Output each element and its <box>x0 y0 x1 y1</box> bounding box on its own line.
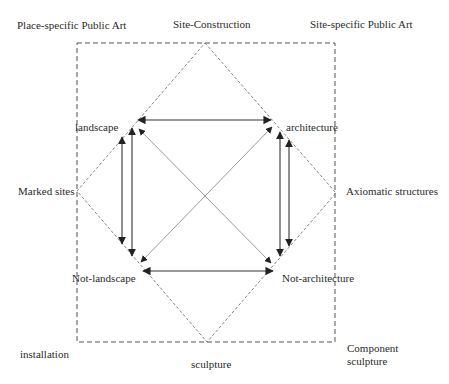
label-axiomatic-structures: Axiomatic structures <box>346 185 438 198</box>
outer-dashed-box <box>77 43 335 342</box>
node-architecture: architecture <box>286 121 338 134</box>
arrow-diagonal-architecture-notlandscape <box>141 127 272 262</box>
label-place-specific-public-art: Place-specific Public Art <box>17 19 126 32</box>
label-site-specific-public-art: Site-specific Public Art <box>310 18 413 31</box>
label-marked-sites: Marked sites <box>18 185 75 198</box>
dashed-diamond <box>77 43 336 342</box>
diagram-canvas: Place-specific Public Art Site-Construct… <box>0 0 449 384</box>
label-component-sculpture: Component sculpture <box>347 342 417 368</box>
node-not-architecture: Not-architecture <box>282 272 354 285</box>
node-landscape: landscape <box>75 121 118 134</box>
label-sculpture: sculpture <box>191 358 231 371</box>
label-installation: installation <box>20 348 69 361</box>
label-site-construction: Site-Construction <box>173 18 251 31</box>
node-not-landscape: Not-landscape <box>72 272 136 285</box>
